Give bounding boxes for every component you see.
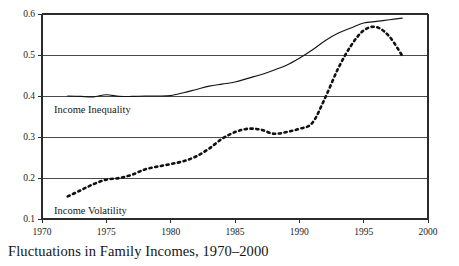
annotation-income-inequality: Income Inequality: [54, 104, 131, 115]
gridlines-group: [42, 55, 428, 178]
y-axis-tick-label: 0.3: [23, 132, 35, 142]
x-axis-tick-label: 1980: [161, 227, 180, 237]
plot-frame: [42, 14, 428, 219]
x-axis-tick-label: 2000: [419, 227, 438, 237]
y-axis-tick-label: 0.6: [23, 9, 35, 19]
annotation-income-volatility: Income Volatility: [54, 205, 128, 216]
x-axis-tick-label: 1975: [97, 227, 116, 237]
chart-canvas: 0.60.50.40.30.20.11970197519801985199019…: [0, 0, 459, 245]
x-axis-tick-label: 1970: [33, 227, 52, 237]
x-axis-tick-label: 1985: [226, 227, 245, 237]
ticks-group: [38, 14, 428, 223]
x-axis-tick-label: 1990: [290, 227, 309, 237]
figure-caption: Fluctuations in Family Incomes, 1970–200…: [8, 243, 269, 260]
figure-container: 0.60.50.40.30.20.11970197519801985199019…: [0, 0, 459, 266]
y-axis-tick-label: 0.1: [23, 214, 35, 224]
x-axis-tick-label: 1995: [354, 227, 373, 237]
axis-tick-labels: 0.60.50.40.30.20.11970197519801985199019…: [23, 9, 438, 237]
y-axis-tick-label: 0.5: [23, 50, 35, 60]
series-annotations: Income Inequality Income Volatility: [54, 104, 131, 216]
series-income-inequality: [68, 18, 403, 97]
y-axis-tick-label: 0.4: [23, 91, 35, 101]
y-axis-tick-label: 0.2: [23, 173, 35, 183]
